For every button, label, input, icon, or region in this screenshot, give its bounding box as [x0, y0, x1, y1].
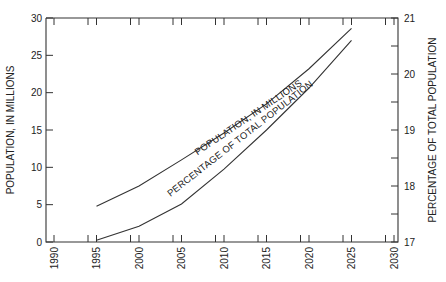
right-axis-title: PERCENTAGE OF TOTAL POPULATION	[427, 38, 438, 223]
x-tick-label: 2020	[304, 247, 315, 270]
x-tick-label: 1995	[91, 247, 102, 270]
x-tick-label: 2025	[346, 247, 357, 270]
x-tick-label: 2030	[389, 247, 400, 270]
percentage-curve-label: PERCENTAGE OF TOTAL POPULATION	[165, 78, 315, 198]
left-axis-title: POPULATION, IN MILLIONS	[5, 65, 16, 194]
y-tick-label: 5	[36, 199, 42, 210]
y-tick-label: 25	[31, 50, 43, 61]
right-tick-label: 19	[404, 125, 416, 136]
left-y-axis: 051015202530	[31, 13, 53, 248]
y-tick-label: 15	[31, 125, 43, 136]
y-tick-label: 20	[31, 87, 43, 98]
y-tick-label: 30	[31, 13, 43, 24]
right-tick-label: 21	[404, 13, 416, 24]
x-tick-label: 2000	[134, 247, 145, 270]
percentage-line	[97, 40, 352, 240]
y-tick-label: 0	[36, 237, 42, 248]
right-tick-label: 17	[404, 237, 416, 248]
right-tick-label: 18	[404, 181, 416, 192]
population-line	[97, 28, 352, 206]
right-tick-label: 20	[404, 69, 416, 80]
chart: 199019952000200520102015202020252030 051…	[0, 0, 446, 282]
x-tick-label: 1990	[49, 247, 60, 270]
x-tick-label: 2015	[261, 247, 272, 270]
right-y-axis: 1718192021	[391, 13, 416, 248]
y-tick-label: 10	[31, 162, 43, 173]
x-tick-label: 2005	[176, 247, 187, 270]
population-curve-label: POPULATION, IN MILLIONS	[192, 77, 303, 157]
x-tick-label: 2010	[219, 247, 230, 270]
